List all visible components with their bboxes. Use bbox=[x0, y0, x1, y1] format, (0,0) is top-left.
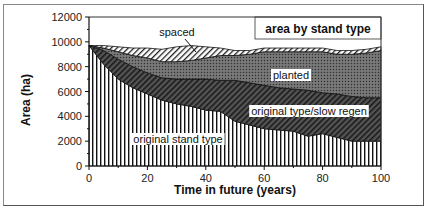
label-original-stand-type: original stand type bbox=[133, 133, 222, 145]
area-chart: 020004000600080001000012000020406080100 … bbox=[0, 0, 430, 212]
y-tick-label: 2000 bbox=[58, 135, 82, 147]
x-tick-label: 100 bbox=[372, 172, 390, 184]
label-planted: planted bbox=[273, 69, 309, 81]
x-axis-title: Time in future (years) bbox=[174, 183, 296, 197]
x-tick-label: 20 bbox=[141, 172, 153, 184]
x-tick-label: 80 bbox=[316, 172, 328, 184]
y-axis-title: Area (ha) bbox=[19, 74, 33, 126]
y-tick-label: 6000 bbox=[58, 86, 82, 98]
label-slow-regen: original type/slow regen bbox=[251, 105, 367, 117]
label-spaced: spaced bbox=[159, 26, 194, 38]
chart-title: area by stand type bbox=[265, 22, 371, 36]
y-tick-label: 0 bbox=[76, 160, 82, 172]
y-tick-label: 10000 bbox=[51, 36, 82, 48]
x-tick-label: 0 bbox=[86, 172, 92, 184]
y-tick-label: 8000 bbox=[58, 61, 82, 73]
y-tick-label: 4000 bbox=[58, 110, 82, 122]
y-tick-label: 12000 bbox=[51, 11, 82, 23]
